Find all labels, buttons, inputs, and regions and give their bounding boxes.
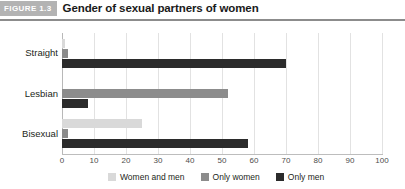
figure-container: FIGURE 1.3 Gender of sexual partners of …	[0, 0, 405, 189]
legend-label-2: Only men	[288, 172, 324, 182]
x-tick-label-30: 30	[154, 156, 163, 165]
legend-swatch-icon-2	[276, 173, 284, 181]
bar-group-bisexual	[62, 114, 382, 154]
bar-bisexual-only-men	[62, 139, 248, 148]
legend-item-only-men: Only men	[276, 172, 324, 182]
chart-legend: Women and menOnly womenOnly men	[108, 172, 340, 182]
bar-straight-only-women	[62, 49, 68, 58]
gridline-100	[382, 33, 383, 154]
legend-item-women-and-men: Women and men	[108, 172, 185, 182]
x-tick-label-90: 90	[346, 156, 355, 165]
bar-lesbian-only-men	[62, 99, 88, 108]
legend-swatch-icon-1	[201, 173, 209, 181]
x-tick-label-40: 40	[186, 156, 195, 165]
bar-straight-only-men	[62, 59, 286, 68]
x-tick-label-20: 20	[122, 156, 131, 165]
bar-bisexual-only-women	[62, 129, 68, 138]
figure-header: FIGURE 1.3 Gender of sexual partners of …	[0, 0, 405, 20]
category-label-bisexual: Bisexual	[2, 128, 58, 139]
value-axis-labels: 0102030405060708090100	[62, 156, 383, 168]
x-tick-label-70: 70	[282, 156, 291, 165]
bar-lesbian-only-women	[62, 89, 228, 98]
x-tick-label-100: 100	[375, 156, 388, 165]
category-label-straight: Straight	[2, 47, 58, 58]
legend-label-1: Only women	[213, 172, 260, 182]
x-tick-label-80: 80	[314, 156, 323, 165]
category-label-lesbian: Lesbian	[2, 88, 58, 99]
x-tick-label-10: 10	[90, 156, 99, 165]
legend-label-0: Women and men	[120, 172, 185, 182]
x-tick-label-60: 60	[250, 156, 259, 165]
bar-straight-women-and-men	[62, 39, 65, 48]
x-axis-baseline	[62, 154, 383, 155]
x-tick-label-50: 50	[218, 156, 227, 165]
plot-area	[62, 33, 382, 154]
header-divider	[0, 19, 405, 21]
x-tick-label-0: 0	[60, 156, 64, 165]
bar-bisexual-women-and-men	[62, 119, 142, 128]
category-axis-labels: StraightLesbianBisexual	[0, 33, 58, 154]
bar-group-lesbian	[62, 73, 382, 113]
figure-title: Gender of sexual partners of women	[63, 2, 259, 14]
legend-swatch-icon-0	[108, 173, 116, 181]
legend-item-only-women: Only women	[201, 172, 260, 182]
figure-number-badge: FIGURE 1.3	[0, 1, 57, 16]
bar-group-straight	[62, 33, 382, 73]
